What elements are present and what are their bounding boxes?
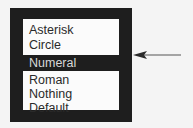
menu-item-nothing[interactable]: Nothing xyxy=(23,87,119,101)
menu-item-asterisk[interactable]: Asterisk xyxy=(23,23,119,37)
menu-item-circle[interactable]: Circle xyxy=(23,38,119,52)
popup-menu-frame: Asterisk Circle Numeral Roman Nothing De… xyxy=(10,8,132,122)
arrow-left-icon xyxy=(133,49,183,61)
bullet-style-list[interactable]: Asterisk Circle Numeral Roman Nothing De… xyxy=(23,19,119,110)
menu-item-default[interactable]: Default xyxy=(23,101,119,115)
menu-item-roman[interactable]: Roman xyxy=(23,73,119,87)
menu-item-numeral[interactable]: Numeral xyxy=(10,55,132,71)
